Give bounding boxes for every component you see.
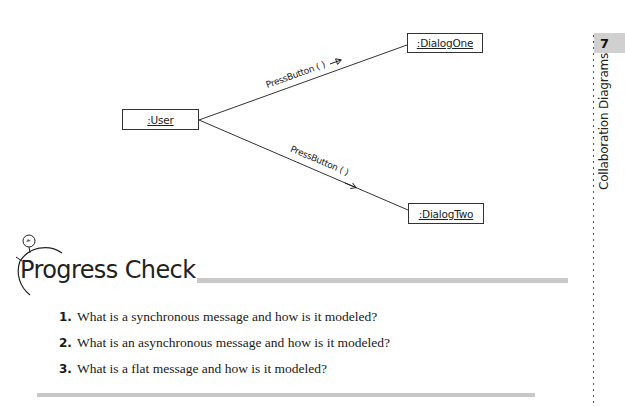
section-title: Progress Check [20,255,195,285]
question-number: 2. [59,336,77,350]
chapter-number: 7 [600,36,609,51]
sync-arrow-icon [329,57,342,67]
section-bottom-rule [37,393,535,397]
chapter-tab: 7 [594,33,625,53]
question-number: 3. [59,362,77,376]
book-page: :User :DialogOne :DialogTwo PressButton … [0,0,625,407]
object-user: :User [122,109,199,130]
question-text: What is a synchronous message and how is… [77,309,377,325]
object-dialog-one: :DialogOne [407,33,483,53]
question-item: 2. What is an asynchronous message and h… [59,335,390,361]
object-dialog-two-label: :DialogTwo [419,208,474,220]
question-list: 1. What is a synchronous message and how… [59,309,390,387]
question-number: 1. [59,310,77,324]
question-item: 1. What is a synchronous message and how… [59,309,390,335]
question-text: What is a flat message and how is it mod… [77,361,327,377]
async-arrow-icon [344,180,357,190]
object-dialog-one-label: :DialogOne [417,37,473,49]
object-dialog-two: :DialogTwo [408,203,484,224]
link-user-dialogtwo [199,120,408,210]
link-user-dialogone [199,45,407,120]
object-user-label: :User [147,114,173,126]
collaboration-diagram [0,0,590,240]
chapter-title: Collaboration Diagrams [597,53,611,190]
question-item: 3. What is a flat message and how is it … [59,361,390,387]
question-text: What is an asynchronous message and how … [77,335,390,351]
title-rule [197,278,568,283]
margin-dotted-rule [592,33,595,407]
